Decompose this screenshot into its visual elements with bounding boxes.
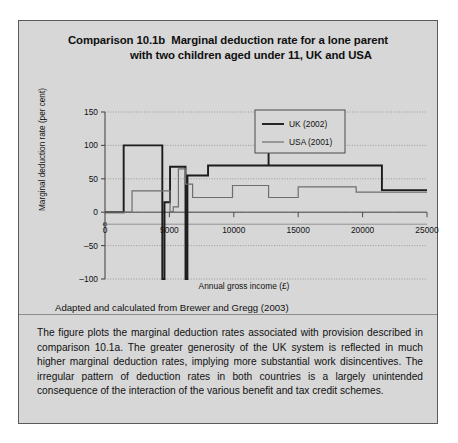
svg-text:150: 150 <box>84 107 98 117</box>
svg-text:20000: 20000 <box>351 225 375 235</box>
svg-text:UK (2002): UK (2002) <box>289 119 327 129</box>
svg-text:0: 0 <box>93 207 98 217</box>
x-axis-label: Annual gross income (£) <box>19 281 439 291</box>
plot-svg: –100–50050100150050001000015000200002500… <box>19 67 439 315</box>
figure-source: Adapted and calculated from Brewer and G… <box>55 302 289 313</box>
svg-text:100: 100 <box>84 140 98 150</box>
svg-text:50: 50 <box>89 174 99 184</box>
section-divider <box>19 314 437 315</box>
svg-text:–50: –50 <box>84 241 98 251</box>
svg-text:10000: 10000 <box>222 225 246 235</box>
figure-commentary: The figure plots the marginal deduction … <box>37 326 423 399</box>
figure-number: Comparison 10.1b <box>68 34 165 46</box>
svg-text:USA (2001): USA (2001) <box>289 137 333 147</box>
svg-text:25000: 25000 <box>415 225 439 235</box>
svg-text:0: 0 <box>103 225 108 235</box>
figure-title: Comparison 10.1b Marginal deduction rate… <box>19 33 437 63</box>
plot-area: –100–50050100150050001000015000200002500… <box>19 67 439 315</box>
figure-title-line-1: Marginal deduction rate for a lone paren… <box>171 34 388 46</box>
figure-title-line-2: with two children aged under 11, UK and … <box>19 48 437 63</box>
chart: Marginal deduction rate (per cent) –100–… <box>19 67 439 315</box>
figure-panel: Comparison 10.1b Marginal deduction rate… <box>18 20 438 424</box>
svg-text:15000: 15000 <box>287 225 311 235</box>
